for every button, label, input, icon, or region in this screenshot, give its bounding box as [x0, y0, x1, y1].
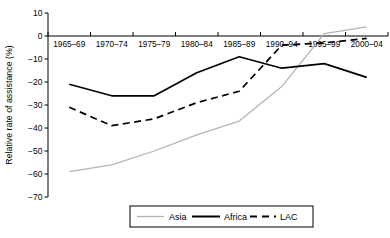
line-chart: 100−10−20−30−40−50−60−701965–691970–7419… — [0, 0, 390, 238]
x-tick-label-0: 1965–69 — [53, 40, 85, 49]
x-tick-label-3: 1980–84 — [181, 40, 213, 49]
series-line-lac — [69, 38, 367, 125]
legend-label-asia: Asia — [169, 212, 187, 222]
y-tick-label-10: 10 — [33, 8, 43, 18]
y-tick-label-0: 0 — [38, 31, 43, 41]
y-tick-label--30: −30 — [28, 100, 43, 110]
y-tick-label--40: −40 — [28, 123, 43, 133]
x-tick-label-7: 2000–04 — [351, 40, 383, 49]
legend-label-africa: Africa — [224, 212, 247, 222]
x-tick-label-1: 1970–74 — [96, 40, 128, 49]
chart-container: 100−10−20−30−40−50−60−701965–691970–7419… — [0, 0, 390, 238]
y-axis-title: Relative rate of assistance (%) — [4, 45, 14, 164]
series-line-africa — [69, 57, 367, 96]
y-tick-label--20: −20 — [28, 77, 43, 87]
y-tick-label--10: −10 — [28, 54, 43, 64]
y-tick-label--60: −60 — [28, 169, 43, 179]
x-tick-label-2: 1975–79 — [138, 40, 170, 49]
y-tick-label--70: −70 — [28, 192, 43, 202]
y-tick-label--50: −50 — [28, 146, 43, 156]
legend-label-lac: LAC — [280, 212, 298, 222]
x-tick-label-4: 1985–89 — [223, 40, 255, 49]
